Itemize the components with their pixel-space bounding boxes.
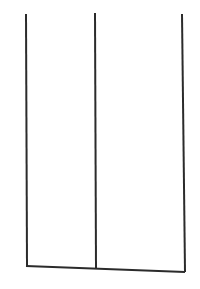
middle-vertical-line xyxy=(95,13,96,269)
drawing-canvas xyxy=(0,0,200,289)
line-drawing-figure xyxy=(0,0,200,289)
canvas-background xyxy=(0,0,200,289)
left-vertical-line xyxy=(26,14,27,266)
